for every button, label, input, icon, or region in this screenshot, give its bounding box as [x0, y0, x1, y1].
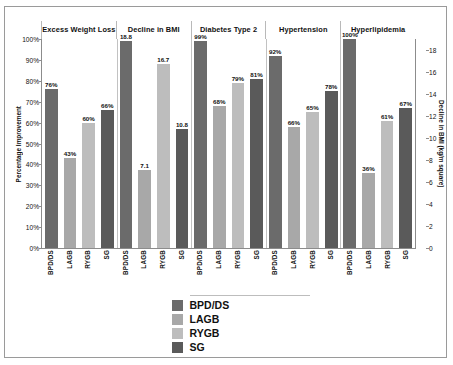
y2-axis-tick-mark [426, 116, 429, 117]
bar[interactable]: 16.7 [157, 64, 170, 248]
bar-value-label: 76% [45, 81, 57, 88]
bar-value-label: 67% [400, 100, 412, 107]
legend-label: LAGB [190, 313, 220, 325]
bar[interactable]: 65% [306, 112, 319, 248]
legend-item[interactable]: SG [172, 341, 280, 353]
x-axis-label-slot: LAGB [135, 250, 154, 294]
x-axis-label-slot: LAGB [284, 250, 303, 294]
bar-slot: 79% [229, 39, 248, 248]
bar-value-label: 61% [381, 113, 393, 120]
bar[interactable]: 66% [288, 127, 301, 248]
bar-slot: 100% [341, 39, 360, 248]
bar-value-label: 99% [194, 33, 206, 40]
x-axis-tick-label: RYGB [84, 250, 91, 269]
bar-slot: 60% [79, 39, 98, 248]
x-axis-tick-label: BPD/DS [122, 250, 129, 275]
bar[interactable]: 79% [232, 83, 245, 248]
bar-slot: 7.1 [135, 39, 154, 248]
bar-slot: 76% [42, 39, 61, 248]
bar[interactable]: 10.8 [176, 129, 189, 248]
y2-axis-tick-mark [426, 50, 429, 51]
y2-axis-tick-mark [426, 94, 429, 95]
group-separator [266, 39, 267, 248]
x-axis-tick-label: BPD/DS [47, 250, 54, 275]
x-axis-tick-label: LAGB [365, 250, 372, 269]
y-axis-tick-mark [39, 102, 42, 103]
legend-item[interactable]: LAGB [172, 313, 280, 325]
bar-value-label: 66% [288, 119, 300, 126]
bar[interactable]: 66% [101, 110, 114, 248]
bar-value-label: 60% [82, 115, 94, 122]
chart-screenshot: Percentage Improvement Decline in BMI (k… [0, 0, 453, 365]
bar[interactable]: 68% [213, 106, 226, 248]
bar-slot: 81% [247, 39, 266, 248]
bar-value-label: 18.8 [120, 33, 132, 40]
group-header: Excess Weight Loss [41, 21, 117, 39]
legend-item[interactable]: BPD/DS [172, 299, 280, 311]
y-axis-tick-mark [39, 227, 42, 228]
x-axis-label-slot: SG [322, 250, 341, 294]
bar[interactable]: 78% [325, 91, 338, 248]
y2-axis-tick-mark [426, 182, 429, 183]
bar[interactable]: 36% [362, 173, 375, 248]
y2-axis-tick-mark [426, 226, 429, 227]
bar[interactable]: 60% [82, 123, 95, 248]
y2-axis-tick-label: 6 [415, 179, 433, 186]
legend-item[interactable]: RYGB [172, 327, 280, 339]
y2-axis-tick-mark [426, 160, 429, 161]
legend-divider [190, 295, 310, 296]
bar-slot: 65% [303, 39, 322, 248]
x-axis-label-slot: RYGB [303, 250, 322, 294]
bar[interactable]: 92% [269, 56, 282, 248]
bar-value-label: 36% [362, 165, 374, 172]
bar-value-label: 7.1 [140, 162, 149, 169]
x-axis-tick-label: SG [103, 250, 110, 260]
x-axis-label-slot: RYGB [78, 250, 97, 294]
chart-frame: Percentage Improvement Decline in BMI (k… [4, 6, 447, 358]
bar[interactable]: 7.1 [138, 170, 151, 248]
y2-axis-tick-label: 8 [415, 157, 433, 164]
bar[interactable]: 81% [250, 79, 263, 248]
bar-value-label: 16.7 [157, 56, 169, 63]
y-axis-tick-mark [39, 81, 42, 82]
bar[interactable]: 67% [399, 108, 412, 248]
y2-axis-tick-mark [426, 248, 429, 249]
bar[interactable]: 76% [45, 89, 58, 248]
bar-value-label: 68% [213, 98, 225, 105]
y2-axis-tick-label: 0 [415, 245, 433, 252]
y-axis-tick-mark [39, 39, 42, 40]
group-separator [117, 39, 118, 248]
x-axis-tick-label: BPD/DS [271, 250, 278, 275]
bar-value-label: 92% [269, 48, 281, 55]
bar[interactable]: 18.8 [120, 41, 133, 248]
x-axis-tick-label: BPD/DS [196, 250, 203, 275]
bar[interactable]: 99% [194, 41, 207, 248]
y-axis-tick-mark [39, 185, 42, 186]
x-axis-tick-label: RYGB [234, 250, 241, 269]
y2-axis-tick-label: 2 [415, 223, 433, 230]
bar-slot: 68% [210, 39, 229, 248]
x-axis-label-slot: RYGB [378, 250, 397, 294]
right-axis-line [415, 39, 416, 249]
x-axis-tick-label: RYGB [159, 250, 166, 269]
x-axis-tick-label: SG [253, 250, 260, 260]
bar-slot: 66% [98, 39, 117, 248]
group-header: Hypertension [266, 21, 341, 39]
bar-value-label: 79% [232, 75, 244, 82]
bar-slot: 43% [61, 39, 80, 248]
y-axis-tick-mark [39, 206, 42, 207]
bar[interactable]: 61% [381, 121, 394, 248]
x-axis-tick-label: SG [178, 250, 185, 260]
y2-axis-tick-label: 4 [415, 201, 433, 208]
bar-value-label: 43% [64, 150, 76, 157]
x-axis-label-slot: SG [396, 250, 415, 294]
bar[interactable]: 43% [64, 158, 77, 248]
x-axis-label-slot: BPD/DS [41, 250, 60, 294]
bar-slot: 78% [322, 39, 341, 248]
x-axis-label-slot: BPD/DS [340, 250, 359, 294]
legend-swatch [172, 300, 183, 311]
bar-slot: 36% [359, 39, 378, 248]
legend-label: SG [190, 341, 205, 353]
bar[interactable]: 100% [343, 39, 356, 248]
y-axis-title-label: Percentage Improvement [15, 106, 22, 182]
